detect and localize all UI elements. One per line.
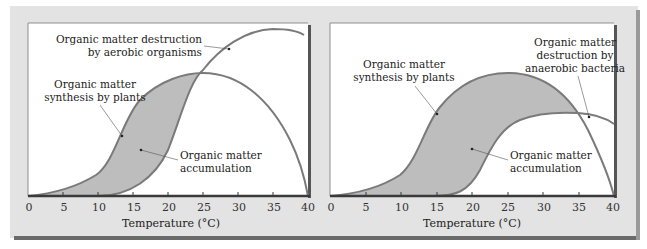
x-tick-label: 30 (537, 201, 551, 214)
x-tick-label: 20 (466, 201, 480, 214)
destruction-label-line3: anaerobic bacteria (525, 62, 625, 74)
synthesis-label-line1: Organic matter (363, 58, 446, 70)
leader-dot (121, 135, 124, 138)
leader-dot (436, 113, 439, 116)
figure-svg: 0 5 10 15 20 25 30 35 40 Temperature (°C… (0, 0, 647, 249)
leader-dot (588, 116, 591, 119)
x-tick-label: 30 (232, 201, 246, 214)
plot-shadow (308, 25, 311, 198)
accumulation-label-line2: accumulation (180, 162, 252, 174)
left-chart: 0 5 10 15 20 25 30 35 40 Temperature (°C… (26, 23, 316, 230)
x-tick-label: 25 (501, 201, 515, 214)
x-tick-label: 40 (606, 201, 620, 214)
x-tick-label: 10 (92, 201, 106, 214)
destruction-label-line2: destruction by (537, 49, 614, 61)
x-tick-label: 5 (363, 201, 370, 214)
x-tick-label: 15 (127, 201, 141, 214)
x-tick-label: 0 (328, 201, 335, 214)
x-axis-title: Temperature (°C) (423, 217, 521, 230)
x-axis-title: Temperature (°C) (122, 217, 220, 230)
x-tick-label: 15 (430, 201, 444, 214)
right-chart: 0 5 10 15 20 25 30 35 40 Temperature (°C… (328, 23, 626, 230)
x-tick-label: 5 (61, 201, 68, 214)
x-tick-label: 35 (572, 201, 586, 214)
accumulation-label-line2: accumulation (510, 162, 582, 174)
destruction-label-line1: Organic matter destruction (56, 33, 202, 45)
x-tick-label: 40 (301, 201, 315, 214)
destruction-label-line1: Organic matter (534, 36, 617, 48)
leader-dot (140, 149, 143, 152)
x-tick-label: 0 (26, 201, 33, 214)
accumulation-label-line1: Organic matter (180, 149, 263, 161)
x-tick-label: 35 (267, 201, 281, 214)
synthesis-label-line1: Organic matter (54, 78, 137, 90)
synthesis-label-line2: synthesis by plants (353, 71, 454, 83)
synthesis-label-line2: synthesis by plants (44, 91, 145, 103)
leader-dot (228, 48, 231, 51)
x-tick-label: 25 (197, 201, 211, 214)
plot-shadow (614, 25, 617, 198)
x-tick-label: 10 (395, 201, 409, 214)
leader-dot (471, 148, 474, 151)
accumulation-label-line1: Organic matter (510, 149, 593, 161)
x-tick-label: 20 (162, 201, 176, 214)
destruction-label-line2: by aerobic organisms (88, 46, 202, 58)
